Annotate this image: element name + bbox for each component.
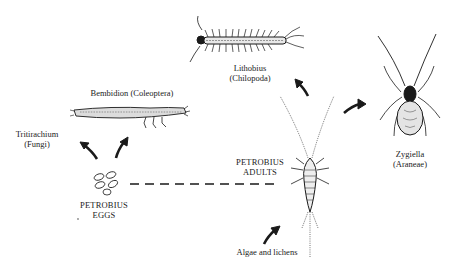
petrobius-adults-line2: ADULTS bbox=[228, 167, 292, 177]
zygiella-name: Zygiella bbox=[380, 149, 440, 159]
lithobius-illustration bbox=[190, 16, 304, 62]
tritirachium-group: (Fungi) bbox=[2, 139, 72, 149]
arrowhead bbox=[358, 99, 366, 109]
zygiella-label: Zygiella (Araneae) bbox=[380, 149, 440, 169]
tritirachium-label: Tritirachium (Fungi) bbox=[2, 129, 72, 149]
lithobius-group: (Chilopoda) bbox=[218, 73, 282, 83]
food-web-diagram: Lithobius (Chilopoda) Bembidion (Coleopt… bbox=[0, 0, 459, 270]
bembidion-illustration bbox=[70, 106, 190, 128]
lithobius-label: Lithobius (Chilopoda) bbox=[218, 63, 282, 83]
arrow-to-bembidion-icon bbox=[116, 142, 124, 158]
petrobius-eggs-line1: PETROBIUS bbox=[72, 200, 136, 210]
tritirachium-name: Tritirachium bbox=[2, 129, 72, 139]
zygiella-illustration bbox=[378, 34, 440, 136]
petrobius-adult-illustration bbox=[280, 96, 334, 258]
lithobius-name: Lithobius bbox=[218, 63, 282, 73]
petrobius-eggs-line2: EGGS bbox=[72, 210, 136, 220]
petrobius-eggs-label: PETROBIUS EGGS bbox=[72, 200, 136, 220]
petrobius-adults-line1: PETROBIUS bbox=[228, 157, 292, 167]
algae-label: Algae and lichens bbox=[228, 247, 306, 257]
petrobius-adults-label: PETROBIUS ADULTS bbox=[228, 157, 292, 177]
petrobius-eggs-illustration bbox=[93, 170, 119, 195]
bembidion-label: Bembidion (Coleoptera) bbox=[76, 88, 188, 98]
zygiella-group: (Araneae) bbox=[380, 159, 440, 169]
